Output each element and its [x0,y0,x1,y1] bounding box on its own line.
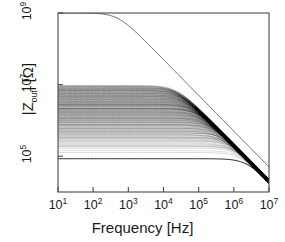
x-tick-label: 102 [76,198,110,212]
y-axis-title-wrapper: |Zout| [Ω] [19,9,37,169]
x-tick-label: 104 [147,198,181,212]
figure-container: 101102103104105106107 105107109 Frequenc… [0,0,285,242]
x-tick-label: 101 [41,198,75,212]
x-tick-label: 106 [217,198,251,212]
x-tick-label: 103 [111,198,145,212]
x-axis-title: Frequency [Hz] [0,219,285,236]
x-tick-label: 105 [182,198,216,212]
x-tick-label: 107 [252,198,285,212]
y-axis-title: |Zout| [Ω] [19,63,36,116]
